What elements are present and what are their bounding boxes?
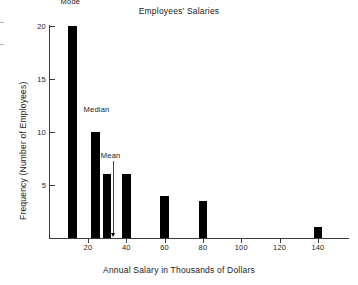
annotation-mean: Mean <box>101 151 121 160</box>
bar <box>160 196 169 239</box>
annotation-pointer-line <box>113 161 114 235</box>
x-axis-tick-label: 100 <box>229 243 253 252</box>
y-axis-tick-label: 5 <box>26 181 46 190</box>
x-axis-line <box>49 238 349 239</box>
x-axis-tick-label: 20 <box>76 243 100 252</box>
bar <box>199 201 208 238</box>
bar <box>103 174 112 238</box>
x-axis-tick-label: 60 <box>153 243 177 252</box>
x-axis-tick-label: 40 <box>114 243 138 252</box>
salary-histogram-chart: Employees' Salaries 51015202040608010012… <box>0 0 358 285</box>
y-axis-tick <box>50 132 55 133</box>
annotation-mode: Mode <box>61 0 81 6</box>
bar <box>122 174 131 238</box>
plot-area: 510152020406080100120140 ModeMedianMean <box>0 0 358 285</box>
x-axis-title: Annual Salary in Thousands of Dollars <box>0 265 358 275</box>
bar <box>91 132 100 238</box>
y-axis-tick <box>50 79 55 80</box>
y-axis-tick-label: 20 <box>26 22 46 31</box>
x-axis-tick-label: 140 <box>306 243 330 252</box>
y-axis-tick <box>50 185 55 186</box>
y-axis-title: Frequency (Number of Employees) <box>18 82 28 220</box>
y-axis-tick <box>50 26 55 27</box>
annotation-median: Median <box>84 105 110 114</box>
annotation-pointer-arrow <box>111 233 115 237</box>
bar <box>68 26 77 239</box>
bar <box>314 227 323 238</box>
x-axis-tick-label: 120 <box>268 243 292 252</box>
y-axis-tick-label: 15 <box>26 75 46 84</box>
y-axis-tick-label: 10 <box>26 128 46 137</box>
x-axis-tick-label: 80 <box>191 243 215 252</box>
